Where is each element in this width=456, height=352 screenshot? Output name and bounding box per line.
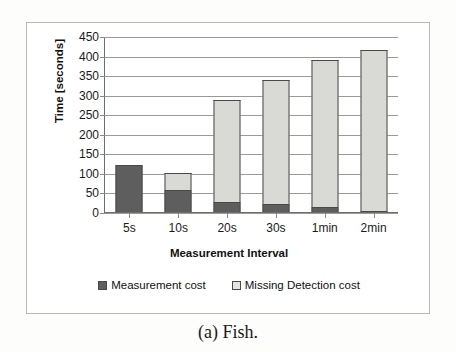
bar-segment-missing-detection-cost[interactable]	[165, 173, 192, 191]
y-tick-label: 0	[92, 207, 99, 219]
legend-swatch-icon	[232, 281, 241, 290]
chart-frame: 050100150200250300350400450 Time [second…	[26, 22, 430, 314]
y-tick-label: 450	[79, 31, 99, 43]
bar-segment-measurement-cost[interactable]	[165, 190, 192, 213]
bar-slot	[349, 37, 398, 213]
bar-slot	[154, 37, 203, 213]
x-tick-label: 2min	[361, 221, 387, 235]
bar-slot	[105, 37, 154, 213]
x-tick-label: 10s	[169, 221, 188, 235]
x-tick-label: 30s	[266, 221, 285, 235]
x-tick-label: 20s	[217, 221, 236, 235]
y-tick-label: 150	[79, 148, 99, 160]
bar-stack[interactable]	[165, 173, 192, 213]
bar-stack[interactable]	[116, 165, 143, 213]
y-tick-label: 300	[79, 90, 99, 102]
legend-swatch-icon	[98, 281, 107, 290]
gridline	[105, 213, 398, 214]
x-tick-label: 1min	[312, 221, 338, 235]
legend-label: Missing Detection cost	[245, 279, 360, 291]
chart-legend: Measurement cost Missing Detection cost	[27, 279, 431, 291]
y-tick-mark	[100, 213, 105, 214]
legend-item-measurement-cost: Measurement cost	[98, 279, 206, 291]
bar-stack[interactable]	[262, 80, 289, 213]
x-tick-mark	[325, 213, 326, 218]
legend-item-missing-detection-cost: Missing Detection cost	[232, 279, 360, 291]
bar-slot	[300, 37, 349, 213]
bar-stack[interactable]	[311, 60, 338, 213]
bar-stack[interactable]	[214, 100, 241, 213]
bar-slot	[203, 37, 252, 213]
bar-stack[interactable]	[360, 50, 387, 213]
bar-segment-missing-detection-cost[interactable]	[214, 100, 241, 202]
x-tick-mark	[276, 213, 277, 218]
bars-layer	[105, 37, 398, 213]
y-tick-label: 250	[79, 109, 99, 121]
bar-segment-missing-detection-cost[interactable]	[262, 80, 289, 204]
x-axis-title: Measurement Interval	[27, 247, 431, 259]
legend-label: Measurement cost	[111, 279, 206, 291]
bar-segment-measurement-cost[interactable]	[116, 165, 143, 213]
figure-caption: (a) Fish.	[0, 322, 456, 343]
bar-segment-missing-detection-cost[interactable]	[360, 50, 387, 211]
y-tick-label: 200	[79, 129, 99, 141]
x-tick-mark	[374, 213, 375, 218]
y-tick-label: 350	[79, 70, 99, 82]
x-tick-mark	[227, 213, 228, 218]
x-axis-line	[105, 212, 398, 213]
bar-segment-missing-detection-cost[interactable]	[311, 60, 338, 207]
y-tick-label: 100	[79, 168, 99, 180]
plot-area	[105, 37, 398, 213]
y-tick-label: 50	[86, 187, 99, 199]
x-tick-mark	[178, 213, 179, 218]
x-tick-label: 5s	[123, 221, 136, 235]
y-tick-label: 400	[79, 51, 99, 63]
bar-slot	[252, 37, 301, 213]
figure-page: 050100150200250300350400450 Time [second…	[0, 0, 456, 352]
x-tick-mark	[129, 213, 130, 218]
y-axis-title: Time [seconds]	[53, 21, 65, 141]
